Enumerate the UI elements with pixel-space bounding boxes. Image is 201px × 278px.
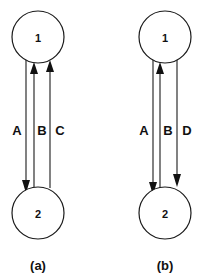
caption-b: (b) [157,258,174,273]
node-b-2-label: 2 [162,208,168,220]
node-b-2: 2 [139,187,191,239]
node-a-2: 2 [12,187,64,239]
edge-b-B-label: B [163,123,172,138]
node-b-1: 1 [139,11,191,63]
edge-a-B-arrowhead-up-icon [30,62,38,74]
edge-b-A-label: A [139,123,149,138]
diagram-b: 1 2 A B D (b) [139,11,192,273]
diagram-a: 1 2 A B C (a) [12,11,65,273]
node-a-1: 1 [12,11,64,63]
edge-b-D-label: D [182,123,191,138]
node-a-2-label: 2 [35,208,41,220]
edge-b-D-arrowhead-down-icon [173,174,181,187]
caption-a: (a) [30,258,46,273]
edge-a-B-label: B [37,123,46,138]
node-b-1-label: 1 [162,32,168,44]
edge-b-B-arrowhead-up-icon [156,62,164,74]
edge-a-C-label: C [55,123,65,138]
node-a-1-label: 1 [35,32,41,44]
diagram-canvas: 1 2 A B C (a) 1 2 A B D [0,0,201,278]
edge-a-A-label: A [12,123,22,138]
